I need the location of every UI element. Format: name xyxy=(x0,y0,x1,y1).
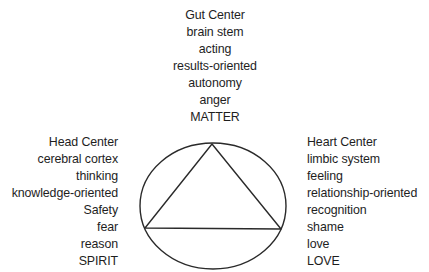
heart-center-mode: feeling xyxy=(307,168,429,185)
head-center-brain-region: cerebral cortex xyxy=(0,151,118,168)
head-center-orientation: knowledge-oriented xyxy=(0,185,118,202)
gut-center-label-group: Gut Center brain stem acting results-ori… xyxy=(140,7,290,126)
heart-center-need: recognition xyxy=(307,202,429,219)
head-center-mode: thinking xyxy=(0,168,118,185)
gut-center-emotion: anger xyxy=(140,92,290,109)
inscribed-triangle xyxy=(145,144,281,229)
gut-center-title: Gut Center xyxy=(140,7,290,24)
gut-center-orientation: results-oriented xyxy=(140,58,290,75)
gut-center-mode: acting xyxy=(140,41,290,58)
gut-center-brain-region: brain stem xyxy=(140,24,290,41)
head-center-essence: SPIRIT xyxy=(0,253,118,270)
gut-center-essence: MATTER xyxy=(140,109,290,126)
heart-center-quality: love xyxy=(307,236,429,253)
gut-center-need: autonomy xyxy=(140,75,290,92)
head-center-need: Safety xyxy=(0,202,118,219)
heart-center-brain-region: limbic system xyxy=(307,151,429,168)
heart-center-emotion: shame xyxy=(307,219,429,236)
head-center-title: Head Center xyxy=(0,134,118,151)
heart-center-title: Heart Center xyxy=(307,134,429,151)
heart-center-orientation: relationship-oriented xyxy=(307,185,429,202)
head-center-label-group: Head Center cerebral cortex thinking kno… xyxy=(0,134,118,270)
head-center-quality: reason xyxy=(0,236,118,253)
heart-center-label-group: Heart Center limbic system feeling relat… xyxy=(307,134,429,270)
head-center-emotion: fear xyxy=(0,219,118,236)
heart-center-essence: LOVE xyxy=(307,253,429,270)
